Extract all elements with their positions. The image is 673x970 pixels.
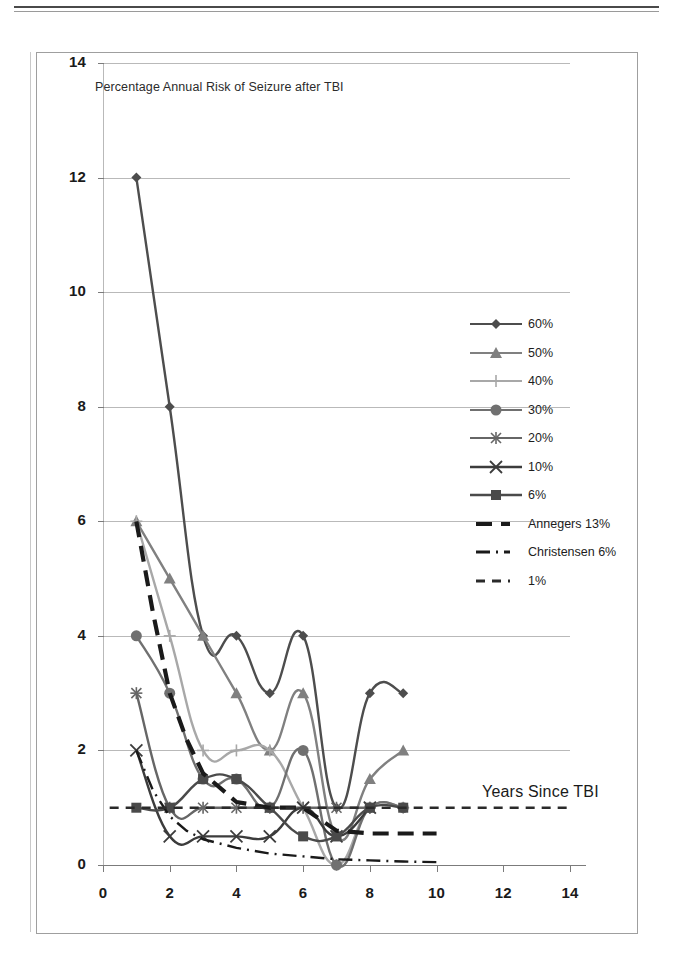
legend-label: 30% <box>524 403 553 417</box>
legend-swatch-annegers-13--icon <box>468 514 524 534</box>
legend-swatch-1--icon <box>468 571 524 591</box>
legend-item[interactable]: 60% <box>468 310 658 339</box>
legend-item[interactable]: 1% <box>468 567 658 596</box>
circle-marker <box>331 860 342 871</box>
circle-marker <box>298 745 309 756</box>
legend-swatch-6--icon <box>468 485 524 505</box>
legend-label: 50% <box>524 346 553 360</box>
diamond-marker <box>131 173 141 183</box>
legend-item[interactable]: Christensen 6% <box>468 538 658 567</box>
triangle-marker <box>230 687 242 698</box>
diamond-marker <box>265 688 275 698</box>
seizure-risk-line-chart: 02468101214 02468101214 Percentage Annua… <box>0 0 673 970</box>
legend-swatch-30--icon <box>468 400 524 420</box>
legend-label: Annegers 13% <box>524 517 610 531</box>
legend-label: 10% <box>524 460 553 474</box>
series-line <box>136 178 403 809</box>
chart-legend: 60%50%40%30%20%10%6%Annegers 13%Christen… <box>468 310 658 595</box>
square-marker <box>231 774 241 784</box>
legend-label: 6% <box>524 488 546 502</box>
legend-swatch-50--icon <box>468 343 524 363</box>
legend-item[interactable]: 20% <box>468 424 658 453</box>
legend-item[interactable]: 6% <box>468 481 658 510</box>
triangle-marker <box>297 687 309 698</box>
legend-label: Christensen 6% <box>524 545 616 559</box>
legend-swatch-40--icon <box>468 371 524 391</box>
circle-marker <box>131 630 142 641</box>
diamond-marker <box>165 402 175 412</box>
legend-item[interactable]: 10% <box>468 453 658 482</box>
legend-label: 60% <box>524 317 553 331</box>
legend-swatch-christensen-6--icon <box>468 542 524 562</box>
legend-swatch-60--icon <box>468 314 524 334</box>
legend-label: 40% <box>524 374 553 388</box>
legend-item[interactable]: Annegers 13% <box>468 510 658 539</box>
square-marker <box>332 831 342 841</box>
legend-swatch-10--icon <box>468 457 524 477</box>
legend-item[interactable]: 30% <box>468 396 658 425</box>
legend-item[interactable]: 40% <box>468 367 658 396</box>
legend-item[interactable]: 50% <box>468 339 658 368</box>
triangle-marker <box>397 744 409 755</box>
series-50- <box>130 515 409 841</box>
series-line <box>136 521 403 840</box>
legend-label: 1% <box>524 574 546 588</box>
legend-swatch-20--icon <box>468 428 524 448</box>
series-60- <box>131 173 408 813</box>
square-marker <box>298 831 308 841</box>
square-marker <box>491 490 501 500</box>
diamond-marker <box>491 319 501 329</box>
series-10- <box>130 744 376 844</box>
legend-label: 20% <box>524 431 553 445</box>
triangle-marker <box>164 573 176 584</box>
diamond-marker <box>398 688 408 698</box>
x-axis-title: Years Since TBI <box>482 783 599 801</box>
circle-marker <box>491 404 502 415</box>
